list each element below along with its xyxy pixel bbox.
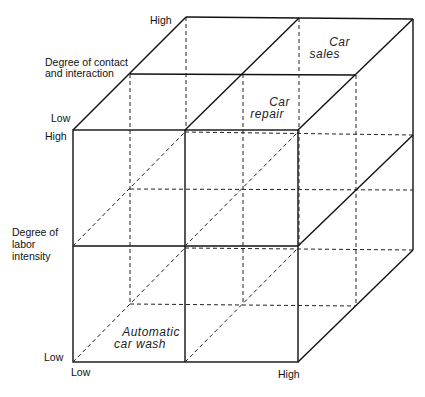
depth-axis-high-label: High: [150, 14, 172, 26]
cell-car-repair-line2: repair: [240, 108, 284, 120]
depth-axis-title-line2: and interaction: [45, 67, 114, 79]
cell-car-sales: Car sales: [300, 36, 350, 60]
cell-car-repair: Car repair: [240, 96, 290, 120]
vertical-axis-title-line2: labor: [12, 238, 35, 250]
vertical-axis-low-label: Low: [44, 351, 63, 363]
horizontal-axis-low-label: Low: [71, 366, 90, 378]
depth-axis-low-label: Low: [51, 112, 70, 124]
cell-automatic-car-wash-line2: car wash: [80, 338, 166, 350]
cell-car-sales-line2: sales: [300, 48, 340, 60]
vertical-axis-title-line1: Degree of: [12, 226, 58, 238]
cell-automatic-car-wash: Automatic car wash: [80, 326, 180, 350]
vertical-axis-title-line3: intensity: [12, 250, 51, 262]
horizontal-axis-high-label: High: [278, 368, 300, 380]
vertical-axis-high-label: High: [45, 130, 67, 142]
